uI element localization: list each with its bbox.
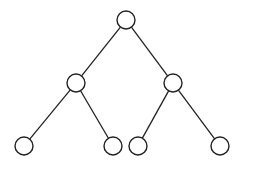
edge-left-to-left-right bbox=[81, 91, 109, 138]
node-right bbox=[164, 74, 182, 92]
edge-right-to-right-right bbox=[178, 90, 214, 139]
tree-diagram bbox=[0, 0, 274, 172]
node-left bbox=[67, 74, 85, 92]
node-root bbox=[117, 11, 135, 29]
edge-right-to-right-left bbox=[142, 91, 168, 138]
tree-nodes bbox=[15, 11, 229, 155]
edge-root-to-left bbox=[82, 27, 121, 76]
node-left-right bbox=[104, 137, 122, 155]
edge-root-to-right bbox=[131, 27, 167, 76]
node-right-left bbox=[129, 137, 147, 155]
node-right-right bbox=[211, 137, 229, 155]
node-left-left bbox=[15, 137, 33, 155]
tree-edges bbox=[30, 27, 215, 139]
edge-left-to-left-left bbox=[30, 90, 71, 139]
